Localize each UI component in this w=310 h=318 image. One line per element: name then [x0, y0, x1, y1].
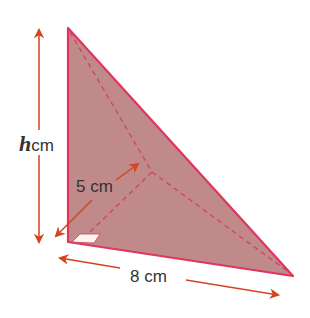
depth-label: 5 cm	[76, 178, 113, 195]
pyramid-diagram: hcm 5 cm 8 cm	[0, 0, 310, 318]
height-label: hcm	[19, 133, 54, 155]
height-variable: h	[19, 131, 31, 156]
base-label: 8 cm	[130, 268, 167, 285]
height-unit: cm	[31, 136, 54, 155]
pyramid-face	[68, 28, 293, 276]
